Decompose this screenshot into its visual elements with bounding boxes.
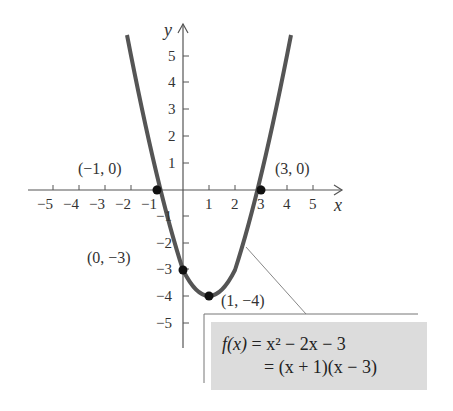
x-axis-label: x bbox=[334, 196, 342, 214]
x-tick-label: 1 bbox=[205, 197, 213, 212]
x-tick-label: −2 bbox=[115, 197, 131, 212]
point-1-neg4 bbox=[205, 292, 214, 301]
x-tick-label: −1 bbox=[141, 197, 157, 212]
parabola-curve bbox=[127, 35, 291, 296]
x-tick-label: 5 bbox=[309, 197, 317, 212]
point-3-0 bbox=[257, 186, 266, 195]
x-tick-label: −3 bbox=[89, 197, 105, 212]
x-tick-label: −4 bbox=[63, 197, 79, 212]
formula-line-1: f(x) = x² − 2x − 3 bbox=[222, 335, 346, 353]
point-label-0-neg3: (0, −3) bbox=[87, 250, 131, 266]
point-label-3-0: (3, 0) bbox=[275, 161, 310, 177]
x-tick-label: −5 bbox=[37, 197, 53, 212]
formula-lhs: f(x) bbox=[222, 334, 247, 354]
y-tick-label: −2 bbox=[156, 236, 172, 251]
formula-box bbox=[211, 322, 427, 390]
x-tick-label: 3 bbox=[257, 197, 265, 212]
y-tick-label: 4 bbox=[168, 75, 176, 90]
y-tick-label: 5 bbox=[168, 49, 176, 64]
point-0-neg3 bbox=[179, 266, 188, 275]
y-tick-label: −3 bbox=[156, 262, 172, 277]
y-tick-label: −1 bbox=[156, 209, 172, 224]
x-tick-label: 2 bbox=[231, 197, 239, 212]
y-tick-label: 1 bbox=[168, 156, 176, 171]
y-tick-label: −5 bbox=[156, 316, 172, 331]
formula-line-2: = (x + 1)(x − 3) bbox=[264, 358, 377, 376]
point-neg1-0 bbox=[153, 186, 162, 195]
y-axis-label: y bbox=[164, 21, 172, 39]
point-label-1-neg4: (1, −4) bbox=[221, 293, 265, 309]
formula-rhs: = x² − 2x − 3 bbox=[251, 334, 345, 354]
y-tick-label: 2 bbox=[168, 129, 176, 144]
point-label-neg1-0: (−1, 0) bbox=[78, 161, 122, 177]
y-tick-label: −4 bbox=[156, 289, 172, 304]
x-tick-label: 4 bbox=[283, 197, 291, 212]
y-tick-label: 3 bbox=[168, 102, 176, 117]
